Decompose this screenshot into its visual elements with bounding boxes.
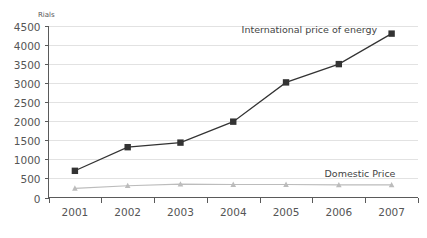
x-tick-label: 2007 — [378, 206, 405, 218]
x-tick-label: 2005 — [273, 206, 300, 218]
y-tick-label: 3500 — [14, 59, 41, 71]
data-point-marker — [388, 30, 394, 36]
data-point-marker — [177, 139, 183, 145]
y-tick-label: 2500 — [14, 97, 41, 109]
data-point-marker — [336, 61, 342, 67]
y-tick-label: 3000 — [14, 78, 41, 90]
data-point-marker — [72, 168, 78, 174]
series-label-international: International price of energy — [242, 24, 378, 35]
y-tick-label: 4500 — [14, 21, 41, 33]
y-tick-label: 0 — [34, 193, 41, 205]
series-label-domestic: Domestic Price — [325, 168, 396, 179]
chart-container: 050010001500200025003000350040004500 200… — [0, 0, 427, 238]
y-tick-label: 1000 — [14, 154, 41, 166]
data-point-marker — [230, 118, 236, 124]
y-axis-unit-label: Rials — [38, 11, 55, 19]
x-tick-label: 2004 — [220, 206, 247, 218]
chart-background — [0, 0, 427, 238]
y-tick-label: 2000 — [14, 116, 41, 128]
data-point-marker — [124, 144, 130, 150]
y-tick-label: 1500 — [14, 135, 41, 147]
line-chart: 050010001500200025003000350040004500 200… — [0, 0, 427, 238]
x-tick-label: 2001 — [62, 206, 89, 218]
data-point-marker — [283, 79, 289, 85]
x-tick-label: 2006 — [325, 206, 352, 218]
y-tick-label: 4000 — [14, 40, 41, 52]
y-tick-label: 500 — [20, 173, 40, 185]
x-tick-label: 2003 — [167, 206, 194, 218]
x-tick-label: 2002 — [114, 206, 141, 218]
